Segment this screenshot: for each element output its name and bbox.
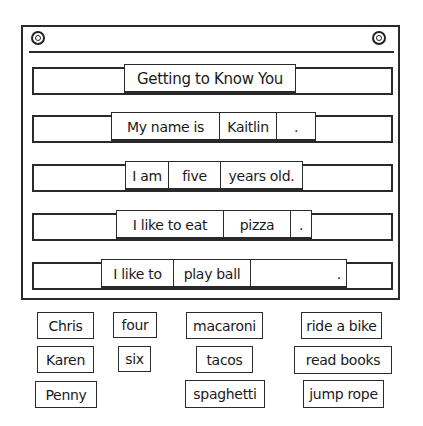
word-card-jump-rope[interactable]: jump rope xyxy=(303,380,384,408)
sentence-card-age[interactable]: five xyxy=(168,161,221,190)
word-card-macaroni[interactable]: macaroni xyxy=(186,312,263,339)
sentence-card-my-name-is[interactable]: My name is xyxy=(111,112,220,141)
hanging-rail xyxy=(29,51,394,53)
sentence-card-period[interactable]: . xyxy=(290,210,312,239)
sentence-card-years-old[interactable]: years old. xyxy=(220,161,303,190)
sentence-card-food[interactable]: pizza xyxy=(223,210,291,239)
grommet-ring-icon-right xyxy=(372,31,386,45)
title-card[interactable]: Getting to Know You xyxy=(124,64,296,93)
sentence-card-period[interactable]: . xyxy=(276,112,316,141)
word-card-four[interactable]: four xyxy=(113,312,157,338)
word-card-ride-a-bike[interactable]: ride a bike xyxy=(301,312,382,339)
sentence-card-activity[interactable]: play ball xyxy=(173,259,251,288)
word-card-spaghetti[interactable]: spaghetti xyxy=(185,380,265,408)
sentence-card-i-like-to[interactable]: I like to xyxy=(101,259,174,288)
sentence-card-i-am[interactable]: I am xyxy=(125,161,169,190)
word-card-tacos[interactable]: tacos xyxy=(196,346,253,373)
word-card-chris[interactable]: Chris xyxy=(37,312,94,339)
word-card-penny[interactable]: Penny xyxy=(35,381,97,408)
word-card-read-books[interactable]: read books xyxy=(294,346,392,374)
sentence-card-blank-period[interactable]: . xyxy=(250,259,347,288)
period-text: . xyxy=(337,266,341,282)
grommet-ring-icon-left xyxy=(31,31,45,45)
sentence-card-i-like-to-eat[interactable]: I like to eat xyxy=(116,210,224,239)
word-card-karen[interactable]: Karen xyxy=(37,346,94,373)
sentence-card-name[interactable]: Kaitlin xyxy=(219,112,277,141)
word-card-six[interactable]: six xyxy=(118,346,151,372)
